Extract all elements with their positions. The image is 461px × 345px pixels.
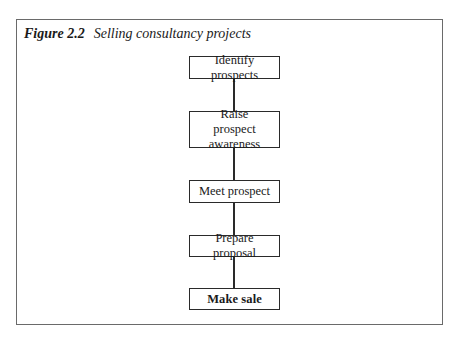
step-meet-prospect: Meet prospect	[189, 180, 280, 203]
figure-number: Figure 2.2	[24, 26, 85, 41]
connector-4-5	[233, 257, 235, 288]
step-make-sale: Make sale	[189, 288, 280, 310]
figure-caption: Figure 2.2Selling consultancy projects	[24, 26, 251, 42]
step-label: Meet prospect	[199, 184, 270, 199]
step-label: Identify prospects	[193, 53, 276, 83]
figure-title: Selling consultancy projects	[94, 26, 251, 41]
step-identify-prospects: Identify prospects	[189, 56, 280, 79]
step-label: Raise prospect awareness	[200, 107, 269, 152]
step-label: Make sale	[207, 292, 262, 307]
connector-2-3	[233, 148, 235, 180]
step-prepare-proposal: Prepare proposal	[189, 235, 280, 257]
step-raise-prospect-awareness: Raise prospect awareness	[189, 111, 280, 148]
step-label: Prepare proposal	[193, 231, 276, 261]
